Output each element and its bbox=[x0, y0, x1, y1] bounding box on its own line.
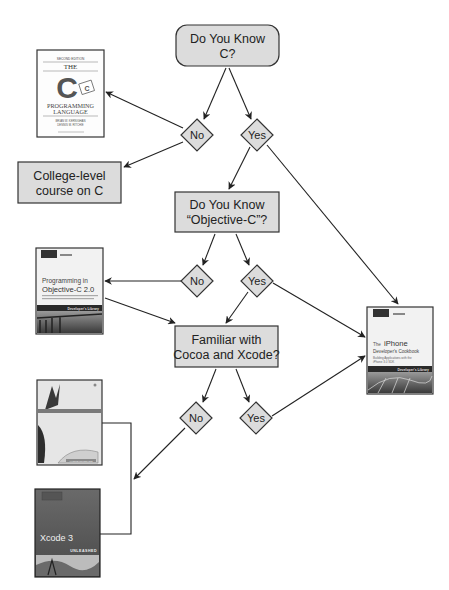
decision-familiar-yes: Yes bbox=[240, 402, 272, 434]
book-iphone-subtitle-line2: iPhone 3.0 SDK bbox=[373, 360, 394, 364]
edge-objcbook-to-familiar bbox=[105, 298, 175, 323]
edge-no-to-cbook bbox=[106, 92, 183, 128]
decision-label: No bbox=[189, 412, 203, 424]
node-know-objc: Do You Know “Objective-C”? bbox=[175, 192, 279, 232]
edge-no-to-college bbox=[124, 142, 183, 167]
edge-yes2-to-familiar bbox=[226, 292, 248, 323]
edge-yes3-to-iphone bbox=[272, 356, 365, 416]
edge-familiar-to-yes bbox=[236, 369, 249, 402]
decision-familiar-no: No bbox=[180, 402, 212, 434]
node-familiar-line2: Cocoa and Xcode? bbox=[173, 348, 279, 362]
decision-label: Yes bbox=[247, 412, 265, 424]
book-objc-series: Developer's Library bbox=[67, 307, 99, 311]
decision-label: Yes bbox=[248, 275, 266, 287]
book-c-small-letter: C bbox=[84, 85, 89, 92]
decision-know-objc-no: No bbox=[181, 265, 213, 297]
book-c-title-line2: LANGUAGE bbox=[53, 108, 88, 115]
node-know-c: Do You Know C? bbox=[176, 25, 279, 66]
book-iphone-title-prefix: The bbox=[373, 342, 381, 347]
node-know-objc-line1: Do You Know bbox=[189, 198, 265, 212]
book-c-programming-language: SECOND EDITION THE C C PROGRAMMING LANGU… bbox=[37, 50, 104, 137]
book-xcode-badge: UNLEASHED bbox=[70, 549, 97, 553]
decision-label: Yes bbox=[248, 129, 266, 141]
node-know-c-line1: Do You Know bbox=[190, 32, 266, 46]
node-college-line2: course on C bbox=[36, 184, 103, 198]
edge-no3-to-bracket bbox=[134, 428, 185, 479]
flowchart-diagram: Do You Know C? College-level course on C… bbox=[0, 0, 449, 590]
book-xcode-title: Xcode 3 bbox=[40, 533, 73, 543]
edge-yes-to-iphone bbox=[267, 145, 398, 304]
book-xcode-3-unleashed: Xcode 3 UNLEASHED bbox=[35, 489, 100, 577]
book-iphone-title-main: iPhone bbox=[384, 339, 408, 348]
book-iphone-title-line2: Developer's Cookbook bbox=[373, 349, 420, 354]
decision-know-c-no: No bbox=[181, 119, 213, 151]
edge-knowc-to-no bbox=[204, 68, 226, 119]
book-c-edition: SECOND EDITION bbox=[57, 57, 85, 61]
book-programming-objective-c: Programming in Objective-C 2.0 Developer… bbox=[36, 248, 103, 334]
node-know-c-line2: C? bbox=[220, 47, 236, 61]
book-c-title-top: THE bbox=[64, 63, 78, 71]
node-familiar-cocoa: Familiar with Cocoa and Xcode? bbox=[173, 326, 279, 367]
edge-knowc-to-yes bbox=[229, 68, 251, 119]
book-objc-title-line1: Programming in bbox=[42, 277, 88, 285]
book-iphone-developers-cookbook: The iPhone Developer's Cookbook Building… bbox=[367, 307, 433, 394]
book-objc-title-line2: Objective-C 2.0 bbox=[42, 285, 94, 294]
edge-yes2-to-iphone bbox=[273, 283, 365, 337]
book-c-letter: C bbox=[56, 71, 78, 104]
node-college-line1: College-level bbox=[33, 169, 105, 183]
decision-label: No bbox=[190, 129, 204, 141]
book-c-author2: DENNIS M. RITCHIE bbox=[57, 123, 84, 127]
book-cocoa-programming: AARON HILLEGASS bbox=[37, 380, 102, 465]
edge-yes-to-knowobjc bbox=[229, 147, 250, 189]
bracket-cocoa-xcode bbox=[100, 423, 131, 534]
edge-familiar-to-no bbox=[203, 369, 216, 402]
decision-know-objc-yes: Yes bbox=[241, 265, 273, 297]
book-iphone-series: Developer's Library bbox=[397, 368, 429, 372]
book-cocoa-author: AARON HILLEGASS bbox=[69, 460, 93, 463]
edge-knowobjc-to-no bbox=[203, 234, 215, 265]
node-college-course: College-level course on C bbox=[18, 162, 121, 203]
node-familiar-line1: Familiar with bbox=[191, 333, 261, 347]
decision-label: No bbox=[190, 275, 204, 287]
edge-knowobjc-to-yes bbox=[236, 234, 249, 265]
node-know-objc-line2: “Objective-C”? bbox=[187, 213, 268, 227]
